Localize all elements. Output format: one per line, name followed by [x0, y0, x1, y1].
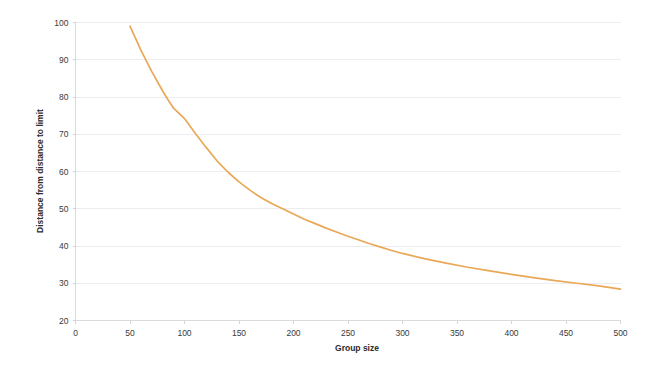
- y-axis-title: Distance from distance to limit: [35, 109, 45, 233]
- x-tick-label: 300: [395, 328, 409, 338]
- y-tick-label: 90: [59, 55, 69, 65]
- x-tick-label: 350: [450, 328, 464, 338]
- y-tick-label: 50: [59, 204, 69, 214]
- y-tick-label: 80: [59, 92, 69, 102]
- y-tick-label: 30: [59, 278, 69, 288]
- y-tick-label: 100: [54, 18, 68, 28]
- x-tick-label: 100: [177, 328, 191, 338]
- y-tick-label: 70: [59, 129, 69, 139]
- x-axis-title: Group size: [335, 343, 379, 353]
- x-tick-label: 50: [125, 328, 135, 338]
- chart-container: 050100150200250300350400450500 203040506…: [0, 0, 645, 368]
- x-tick-label: 450: [559, 328, 573, 338]
- x-tick-label: 250: [341, 328, 355, 338]
- y-tick-label: 60: [59, 167, 69, 177]
- y-tick-label: 40: [59, 241, 69, 251]
- plot-background: [0, 0, 645, 368]
- x-tick-label: 400: [504, 328, 518, 338]
- x-tick-label: 200: [286, 328, 300, 338]
- y-tick-label: 20: [59, 316, 69, 326]
- x-tick-label: 500: [613, 328, 627, 338]
- x-tick-label: 0: [73, 328, 78, 338]
- x-tick-label: 150: [232, 328, 246, 338]
- line-chart: 050100150200250300350400450500 203040506…: [0, 0, 645, 368]
